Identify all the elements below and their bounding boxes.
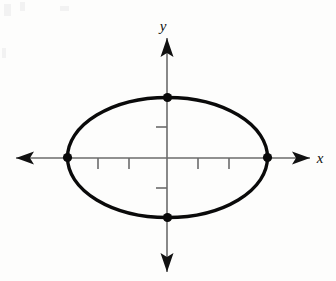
ellipse-vertex-right [263, 153, 272, 162]
figure-canvas: x y [0, 0, 336, 281]
ellipse-vertex-left [63, 153, 72, 162]
x-axis-label: x [316, 150, 324, 166]
y-axis-label: y [158, 18, 167, 34]
ellipse-vertex-bottom [163, 213, 172, 222]
ellipse-vertex-top [163, 93, 172, 102]
ellipse-graph: x y [0, 0, 336, 281]
